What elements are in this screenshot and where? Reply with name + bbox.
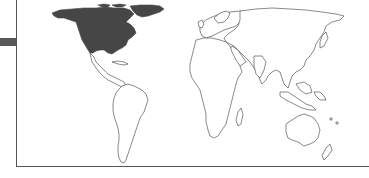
region-north-america [52, 4, 164, 54]
world-map [0, 0, 369, 178]
